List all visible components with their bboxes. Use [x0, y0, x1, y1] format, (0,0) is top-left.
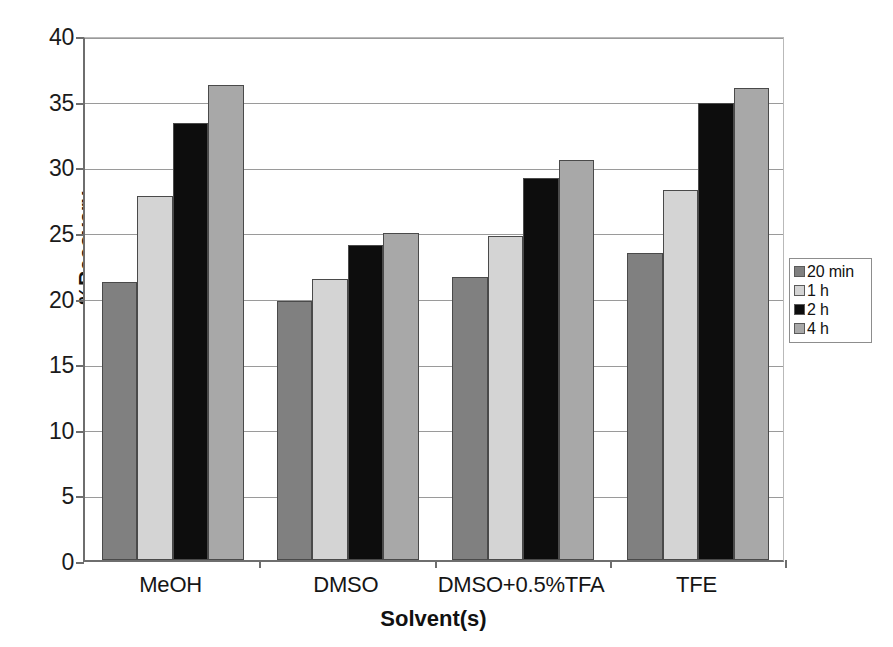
plot-area [83, 37, 784, 562]
y-axis-tick [76, 562, 84, 564]
bar [734, 88, 770, 561]
legend-label: 4 h [807, 320, 829, 338]
chart-legend: 20 min1 h2 h4 h [789, 258, 872, 343]
legend-swatch-icon [794, 285, 805, 296]
y-axis-tick-label: 20 [14, 286, 74, 313]
bar [383, 233, 419, 560]
y-axis-tick [76, 234, 84, 236]
bar [663, 190, 699, 560]
x-axis-category-label: MeOH [139, 572, 202, 598]
x-axis-category-label: DMSO [313, 572, 378, 598]
y-axis-tick-label: 35 [14, 89, 74, 116]
bar [208, 85, 244, 560]
y-axis-tick-labels: 0510152025303540 [8, 37, 74, 562]
legend-item: 20 min [794, 262, 868, 281]
y-axis-tick [76, 103, 84, 105]
bar-chart-figure: %Recovery 0510152025303540 MeOHDMSODMSO+… [0, 0, 893, 647]
y-axis-tick-label: 15 [14, 352, 74, 379]
bar-group [277, 38, 419, 560]
bar [559, 160, 595, 560]
bar [698, 103, 734, 560]
legend-swatch-icon [794, 304, 805, 315]
y-axis-tick-label: 10 [14, 417, 74, 444]
bar [137, 196, 173, 560]
y-axis-tick-label: 0 [14, 549, 74, 576]
legend-item: 4 h [794, 319, 868, 338]
bar [627, 253, 663, 560]
legend-item: 1 h [794, 281, 868, 300]
legend-swatch-icon [794, 266, 805, 277]
y-axis-tick-label: 5 [14, 483, 74, 510]
y-axis-tick-label: 40 [14, 24, 74, 51]
y-axis-tick [76, 168, 84, 170]
legend-label: 2 h [807, 301, 829, 319]
bar [173, 123, 209, 560]
bar-group [452, 38, 594, 560]
bar [523, 178, 559, 560]
bar [452, 277, 488, 561]
legend-item: 2 h [794, 300, 868, 319]
legend-label: 1 h [807, 282, 829, 300]
bar-group [627, 38, 769, 560]
y-axis-tick-label: 30 [14, 155, 74, 182]
bar [348, 245, 384, 560]
x-axis-category-label: TFE [676, 572, 717, 598]
bar [277, 301, 313, 560]
y-axis-tick [76, 365, 84, 367]
x-axis-tick [435, 560, 437, 568]
bar [312, 279, 348, 560]
bar [488, 236, 524, 560]
y-axis-tick [76, 300, 84, 302]
bar [102, 282, 138, 560]
y-axis-tick [76, 37, 84, 39]
y-axis-tick [76, 431, 84, 433]
x-axis-tick [785, 560, 787, 568]
x-axis-category-label: DMSO+0.5%TFA [438, 572, 605, 598]
x-axis-title: Solvent(s) [83, 606, 784, 632]
y-axis-tick [76, 496, 84, 498]
bar-group [102, 38, 244, 560]
y-axis-tick-label: 25 [14, 220, 74, 247]
x-axis-tick-labels: MeOHDMSODMSO+0.5%TFATFE [83, 572, 784, 606]
legend-label: 20 min [807, 263, 854, 281]
x-axis-tick [610, 560, 612, 568]
legend-swatch-icon [794, 323, 805, 334]
x-axis-tick [259, 560, 261, 568]
